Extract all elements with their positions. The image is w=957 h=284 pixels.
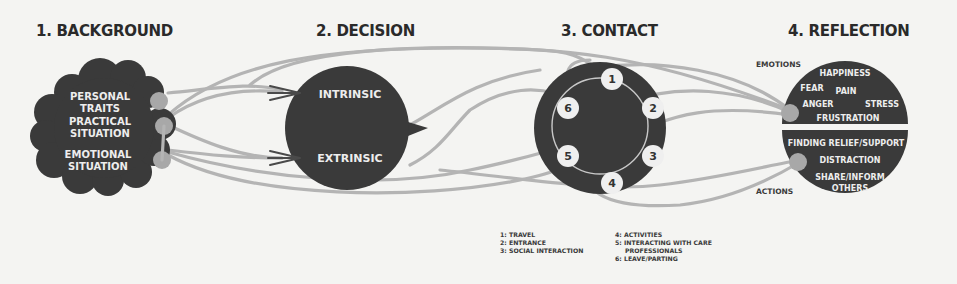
contact-node-1: 1 <box>601 68 623 90</box>
contact-node-5: 5 <box>557 145 579 167</box>
decision-circle: INTRINSIC EXTRINSIC <box>268 66 428 190</box>
process-diagram: 1. BACKGROUND 2. DECISION 3. CONTACT 4. … <box>0 0 957 284</box>
action-share-inform: SHARE/INFORM <box>815 173 884 182</box>
svg-text:4: 4 <box>608 177 616 190</box>
emotion-fear: FEAR <box>800 84 823 93</box>
emotions-label: EMOTIONS <box>756 60 801 69</box>
legend-interacting-care: 5: INTERACTING WITH CARE <box>615 239 712 246</box>
bg-item-practical-line1: PRACTICAL <box>69 116 132 127</box>
action-others: OTHERS <box>832 184 869 193</box>
contact-circle: 1 2 3 4 5 6 <box>534 62 666 194</box>
stage-title-background: 1. BACKGROUND <box>36 22 173 40</box>
connection-paths <box>168 48 800 206</box>
legend-entrance: 2: ENTRANCE <box>500 239 546 246</box>
stage-title-reflection: 4. REFLECTION <box>788 22 909 40</box>
svg-text:2: 2 <box>649 102 657 115</box>
diagram-stage: 1. BACKGROUND 2. DECISION 3. CONTACT 4. … <box>0 0 957 284</box>
path-top-arc-contact1 <box>250 48 598 85</box>
stage-title-decision: 2. DECISION <box>316 22 415 40</box>
svg-text:1: 1 <box>608 73 616 86</box>
legend-social-interaction: 3: SOCIAL INTERACTION <box>500 247 583 254</box>
actions-label: ACTIONS <box>756 187 793 196</box>
bg-item-personal-line1: PERSONAL <box>70 91 131 102</box>
background-cloud: PERSONAL TRAITS PRACTICAL SITUATION EMOT… <box>30 58 176 196</box>
emotion-anger: ANGER <box>802 100 833 109</box>
svg-text:3: 3 <box>649 150 657 163</box>
node-personal-traits <box>150 92 168 110</box>
decision-extrinsic: EXTRINSIC <box>317 152 382 165</box>
node-actions <box>789 153 807 171</box>
action-distraction: DISTRACTION <box>820 156 881 165</box>
decision-pointer <box>408 122 428 136</box>
bg-item-emotional-line2: SITUATION <box>68 161 128 172</box>
path-decision-contact <box>404 70 540 128</box>
legend-activities: 4: ACTIVITIES <box>615 231 662 238</box>
contact-node-6: 6 <box>557 97 579 119</box>
stage-title-contact: 3. CONTACT <box>561 22 659 40</box>
emotion-pain: PAIN <box>836 87 857 96</box>
node-emotions <box>781 104 799 122</box>
emotion-frustration: FRUSTRATION <box>817 114 880 123</box>
svg-text:5: 5 <box>564 150 572 163</box>
decision-intrinsic: INTRINSIC <box>319 88 382 101</box>
contact-node-2: 2 <box>642 97 664 119</box>
legend-travel: 1: TRAVEL <box>500 231 535 238</box>
contact-node-3: 3 <box>642 145 664 167</box>
contact-legend: 1: TRAVEL 2: ENTRANCE 3: SOCIAL INTERACT… <box>500 231 712 262</box>
legend-leave-parting: 6: LEAVE/PARTING <box>615 255 678 262</box>
emotion-stress: STRESS <box>865 100 899 109</box>
contact-node-4: 4 <box>601 172 623 194</box>
path-practical-intrinsic <box>168 91 282 118</box>
legend-professionals: PROFESSIONALS <box>625 247 683 254</box>
svg-text:6: 6 <box>564 102 572 115</box>
bg-item-practical-line2: SITUATION <box>70 128 130 139</box>
action-finding-relief: FINDING RELIEF/SUPPORT <box>788 139 905 148</box>
emotion-happiness: HAPPINESS <box>820 69 871 78</box>
bg-item-emotional-line1: EMOTIONAL <box>65 149 132 160</box>
bg-item-personal-line2: TRAITS <box>80 103 120 114</box>
